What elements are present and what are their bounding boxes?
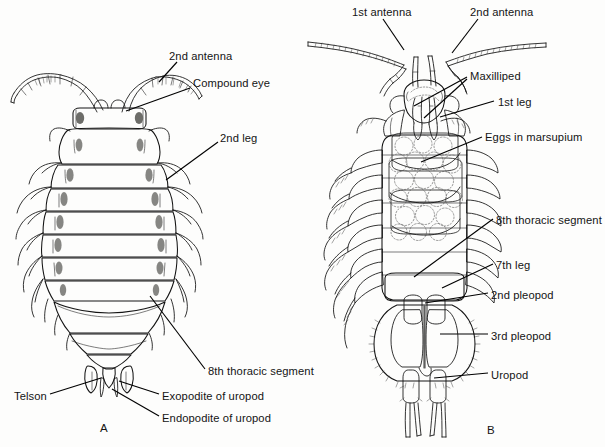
leader-first-leg [440, 101, 494, 117]
pereopods-left-a [16, 128, 70, 350]
label-exopodite-of-uropod: Exopodite of uropod [162, 390, 264, 402]
label-third-pleopod: 3rd pleopod [491, 330, 551, 342]
leader-first-antenna [383, 19, 404, 50]
panel-a-artwork [11, 74, 203, 397]
label-endopodite-of-uropod: Endopodite of uropod [162, 412, 271, 424]
pereon-b [382, 133, 467, 300]
eighth-thoracic-segment-b-art [385, 273, 464, 301]
leader-endopodite-of-uropod [112, 389, 159, 416]
label-eighth-thoracic-segment-a: 8th thoracic segment [208, 365, 314, 377]
label-second-pleopod: 2nd pleopod [491, 289, 554, 301]
leader-eighth-thoracic-segment-a [150, 296, 205, 369]
telson-b [419, 368, 431, 376]
panel-letter-b: B [487, 424, 495, 436]
figure-root: 2nd antennaCompound eye2nd leg8th thorac… [0, 0, 605, 447]
label-seventh-leg: 7th leg [496, 259, 530, 271]
antenna-right-a [122, 75, 202, 112]
label-first-leg: 1st leg [498, 96, 532, 108]
antenna-left-a [11, 74, 103, 112]
pereopods-right-a [149, 128, 203, 350]
leader-maxilliped [414, 77, 467, 106]
antennae-b [308, 42, 546, 96]
pereon-a [42, 128, 178, 301]
label-compound-eye: Compound eye [193, 77, 270, 89]
leader-compound-eye [126, 88, 190, 111]
label-eighth-thoracic-segment-b: 8th thoracic segment [496, 214, 602, 226]
pereopods-left-b [324, 150, 383, 348]
cephalon-a [73, 100, 146, 129]
label-telson: Telson [14, 390, 47, 402]
uropods-a [85, 366, 134, 397]
label-first-antenna: 1st antenna [352, 6, 412, 18]
pleon-a [54, 302, 165, 369]
uropods-b [400, 370, 450, 437]
panel-letter-a: A [100, 422, 108, 434]
first-antennae-b [413, 56, 436, 87]
leader-lines [50, 19, 494, 416]
leader-second-antenna-b [452, 19, 478, 53]
label-maxilliped: Maxilliped [470, 70, 521, 82]
leader-maxilliped-2 [424, 79, 467, 118]
telson-a [103, 368, 116, 388]
label-second-antenna: 2nd antenna [169, 50, 232, 62]
pleon-b [369, 295, 480, 388]
head-b [404, 80, 445, 140]
label-second-antenna-b: 2nd antenna [470, 6, 533, 18]
label-second-leg: 2nd leg [220, 132, 257, 144]
leader-second-pleopod [425, 293, 488, 303]
label-eggs-in-marsupium: Eggs in marsupium [485, 131, 582, 143]
label-uropod: Uropod [491, 369, 528, 381]
leader-second-leg [166, 142, 218, 180]
